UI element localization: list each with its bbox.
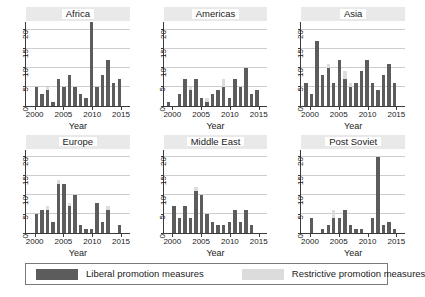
- bar-segment-restrictive: [332, 210, 335, 218]
- bar-segment-liberal: [167, 102, 170, 106]
- bar-segment-liberal: [68, 75, 71, 105]
- bar-segment-liberal: [51, 102, 54, 106]
- bar-segment-liberal: [95, 87, 98, 106]
- x-axis: 2000200520102015: [164, 234, 268, 247]
- bar-segment-liberal: [315, 41, 318, 106]
- x-axis: 2000200520102015: [301, 234, 405, 247]
- x-axis-title: Year: [26, 247, 130, 259]
- bar-segment-liberal: [95, 203, 98, 233]
- bar-slot: [397, 150, 403, 234]
- plot-row: 05101520: [275, 22, 413, 107]
- x-tick-label: 2000: [301, 110, 319, 119]
- bar-segment-liberal: [118, 79, 121, 106]
- bar-segment-liberal: [327, 225, 330, 233]
- bar-segment-liberal: [200, 98, 203, 106]
- plot-area: [26, 22, 130, 107]
- legend-label-liberal: Liberal promotion measures: [86, 269, 204, 279]
- y-axis: 05101520: [275, 22, 301, 107]
- bar-segment-liberal: [211, 94, 214, 105]
- bar-group: [301, 22, 405, 106]
- bar-segment-restrictive: [343, 71, 346, 79]
- bar-group: [26, 22, 130, 106]
- panel-asia: Asia051015202000200520102015Year: [275, 4, 413, 132]
- bar-segment-liberal: [376, 90, 379, 105]
- bar-segment-liberal: [239, 87, 242, 106]
- panel-title: Middle East: [187, 137, 245, 147]
- bar-segment-liberal: [40, 210, 43, 233]
- bar-segment-liberal: [57, 79, 60, 106]
- bar-segment-liberal: [90, 229, 93, 233]
- bar-segment-liberal: [360, 229, 363, 233]
- bar-segment-liberal: [233, 210, 236, 233]
- x-tick-label: 2005: [192, 237, 210, 246]
- bar-segment-liberal: [46, 90, 49, 105]
- bar-segment-liberal: [343, 79, 346, 106]
- x-tick-label: 2015: [387, 237, 405, 246]
- bar-segment-liberal: [189, 218, 192, 233]
- panel-middle-east: Middle East051015202000200520102015Year: [138, 132, 276, 260]
- bar-segment-liberal: [35, 87, 38, 106]
- bar-segment-liberal: [233, 79, 236, 106]
- plot-row: 05101520: [0, 22, 138, 107]
- x-tick-label: 2010: [221, 237, 239, 246]
- panel-title: Post Soviet: [325, 137, 381, 147]
- bar-segment-liberal: [393, 229, 396, 233]
- plot-area: [26, 150, 130, 235]
- bar-segment-liberal: [250, 225, 253, 233]
- x-tick-label: 2000: [163, 110, 181, 119]
- bar-segment-liberal: [382, 225, 385, 233]
- bar-segment-liberal: [338, 60, 341, 106]
- legend-label-restrictive: Restrictive promotion measures: [292, 269, 425, 279]
- y-axis: 05101520: [138, 22, 164, 107]
- x-axis-title: Year: [301, 247, 405, 259]
- plot-area: [301, 150, 405, 235]
- bar-segment-liberal: [393, 83, 396, 106]
- panel-strip: Middle East: [164, 135, 268, 149]
- x-tick-label: 2005: [330, 110, 348, 119]
- bar-segment-liberal: [90, 22, 93, 106]
- x-tick-label: 2000: [26, 110, 44, 119]
- bar-segment-liberal: [387, 222, 390, 233]
- bar-segment-liberal: [244, 210, 247, 233]
- plot-area: [164, 22, 268, 107]
- y-axis: 05101520: [0, 22, 26, 107]
- bar-segment-liberal: [62, 184, 65, 233]
- bar-segment-liberal: [304, 83, 307, 106]
- bar-segment-liberal: [387, 64, 390, 106]
- panel-africa: Africa051015202000200520102015Year: [0, 4, 138, 132]
- bar-segment-liberal: [62, 87, 65, 106]
- bar-segment-liberal: [106, 60, 109, 106]
- x-tick-label: 2010: [83, 237, 101, 246]
- panel-europe: Europe051015202000200520102015Year: [0, 132, 138, 260]
- x-axis: 2000200520102015: [26, 234, 130, 247]
- panel-grid: Africa051015202000200520102015YearAmeric…: [0, 4, 413, 259]
- bar-segment-liberal: [79, 225, 82, 233]
- bar-segment-liberal: [205, 214, 208, 233]
- x-axis-title: Year: [26, 120, 130, 132]
- x-tick-label: 2005: [330, 237, 348, 246]
- bar-slot: [122, 150, 128, 234]
- legend-item-liberal: Liberal promotion measures: [36, 269, 204, 280]
- bar-segment-liberal: [360, 71, 363, 105]
- x-tick-label: 2015: [112, 110, 130, 119]
- bar-slot: [260, 22, 266, 106]
- bar-segment-liberal: [321, 75, 324, 105]
- bar-segment-liberal: [73, 195, 76, 233]
- bar-segment-liberal: [46, 210, 49, 233]
- bar-segment-liberal: [349, 225, 352, 233]
- bar-segment-liberal: [216, 90, 219, 105]
- bar-segment-liberal: [57, 184, 60, 233]
- x-tick-label: 2010: [221, 110, 239, 119]
- bar-segment-liberal: [371, 218, 374, 233]
- x-tick-label: 2005: [55, 110, 73, 119]
- bar-segment-liberal: [200, 195, 203, 233]
- plot-area: [301, 22, 405, 107]
- x-tick-label: 2015: [112, 237, 130, 246]
- bar-slot: [122, 22, 128, 106]
- bar-segment-liberal: [332, 83, 335, 106]
- x-axis-title: Year: [164, 120, 268, 132]
- bar-segment-liberal: [194, 79, 197, 106]
- bar-segment-liberal: [349, 87, 352, 106]
- bar-segment-liberal: [112, 83, 115, 106]
